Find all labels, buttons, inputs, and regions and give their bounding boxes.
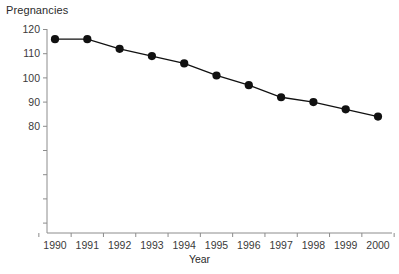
y-axis-tick-label: 110 <box>23 47 40 59</box>
chart-container: Pregnancies 8090100110120 19901991199219… <box>0 0 399 274</box>
x-axis-tick-label: 2000 <box>366 239 390 251</box>
y-axis-tick-label: 80 <box>28 120 40 132</box>
x-axis-tick-label: 1999 <box>334 239 358 251</box>
x-axis-tick-label: 1995 <box>205 239 229 251</box>
x-axis-tick-label: 1991 <box>76 239 100 251</box>
x-axis-tick-label: 1994 <box>173 239 197 251</box>
data-point-marker <box>116 45 124 53</box>
x-axis-tick-label: 1990 <box>43 239 67 251</box>
y-axis-tick-label: 120 <box>22 23 40 35</box>
data-point-marker <box>374 113 382 121</box>
y-axis-ticks <box>43 30 47 224</box>
data-point-marker <box>277 93 285 101</box>
data-point-marker <box>180 59 188 67</box>
x-axis-tick-label: 1993 <box>140 239 164 251</box>
data-point-marker <box>245 81 253 89</box>
x-axis-tick-labels: 1990199119921993199419951996199719981999… <box>43 239 390 251</box>
x-axis-tick-label: 1996 <box>237 239 261 251</box>
data-point-markers <box>51 35 382 121</box>
x-axis-label: Year <box>0 253 399 265</box>
x-axis-tick-label: 1998 <box>302 239 326 251</box>
data-point-marker <box>148 52 156 60</box>
line-chart-plot: 8090100110120 19901991199219931994199519… <box>0 0 399 274</box>
x-axis-tick-label: 1997 <box>269 239 293 251</box>
data-point-marker <box>83 35 91 43</box>
y-axis-tick-label: 100 <box>22 72 40 84</box>
x-axis-tick-label: 1992 <box>108 239 132 251</box>
y-axis-tick-labels: 8090100110120 <box>22 23 40 132</box>
data-point-marker <box>212 71 220 79</box>
data-point-marker <box>51 35 59 43</box>
data-point-marker <box>342 105 350 113</box>
x-axis-ticks <box>39 233 394 237</box>
axes <box>47 29 392 233</box>
data-point-marker <box>309 98 317 106</box>
y-axis-tick-label: 90 <box>28 96 40 108</box>
